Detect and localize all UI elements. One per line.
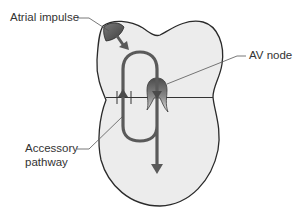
av-node-label: AV node [249, 49, 292, 62]
heart-conduction-diagram [0, 0, 297, 214]
accessory-pathway-label-line1: Accessory [25, 142, 78, 155]
atrial-impulse-label: Atrial impulse [10, 11, 79, 24]
heart-outline [97, 21, 223, 206]
accessory-pathway-label-line2: pathway [25, 156, 68, 169]
